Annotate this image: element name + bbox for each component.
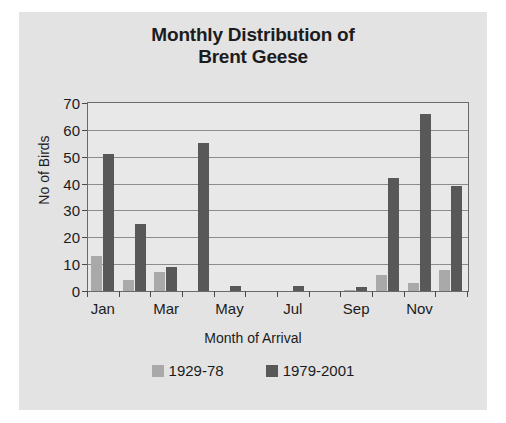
y-tick-label: 10 [27, 256, 87, 273]
bar [103, 154, 114, 291]
x-tick-mark [372, 291, 373, 297]
x-tick-label: May [200, 300, 260, 317]
chart-title-line-2: Brent Geese [19, 46, 487, 68]
x-tick-mark [119, 291, 120, 297]
bar [154, 272, 165, 291]
x-axis-tick-labels: JanMarMayJulSepNov [87, 300, 468, 322]
y-tick-label: 60 [27, 121, 87, 138]
bar [388, 178, 399, 291]
bar [439, 270, 450, 291]
x-tick-label: Mar [136, 300, 196, 317]
x-tick-mark [277, 291, 278, 297]
y-axis-ticks: 010203040506070 [19, 102, 87, 291]
x-tick-label: Nov [390, 300, 450, 317]
y-tick-label: 70 [27, 95, 87, 112]
x-tick-mark [214, 291, 215, 297]
bar-group [88, 103, 120, 291]
x-tick-mark [435, 291, 436, 297]
bar [376, 275, 387, 291]
legend-label: 1929-78 [169, 362, 224, 379]
bars-layer [88, 103, 468, 291]
bar [198, 143, 209, 291]
bar-group [436, 103, 468, 291]
x-tick-mark [467, 291, 468, 297]
bar-group [278, 103, 310, 291]
bar-group [120, 103, 152, 291]
x-tick-mark [309, 291, 310, 297]
bar [123, 280, 134, 291]
legend-label: 1979-2001 [283, 362, 355, 379]
x-tick-label: Jul [263, 300, 323, 317]
plot-area [87, 102, 469, 292]
y-tick-label: 20 [27, 229, 87, 246]
bar-group [215, 103, 247, 291]
y-tick-label: 30 [27, 202, 87, 219]
x-tick-mark [245, 291, 246, 297]
legend-item[interactable]: 1979-2001 [266, 362, 355, 379]
y-tick-label: 40 [27, 175, 87, 192]
y-tick-label: 50 [27, 148, 87, 165]
bar [408, 283, 419, 291]
legend-swatch-icon [266, 365, 278, 377]
x-tick-mark [404, 291, 405, 297]
x-tick-mark [182, 291, 183, 297]
x-axis-tick-marks [87, 291, 468, 298]
chart-figure: Monthly Distribution of Brent Geese No o… [19, 12, 487, 410]
x-tick-mark [150, 291, 151, 297]
x-axis-title: Month of Arrival [19, 330, 487, 346]
bar-group [151, 103, 183, 291]
bar [91, 256, 102, 291]
legend-swatch-icon [152, 365, 164, 377]
bar-group [373, 103, 405, 291]
bar [451, 186, 462, 291]
x-tick-mark [340, 291, 341, 297]
y-tick-label: 0 [27, 283, 87, 300]
x-tick-label: Sep [326, 300, 386, 317]
bar-group [310, 103, 342, 291]
bar-group [246, 103, 278, 291]
bar-group [405, 103, 437, 291]
bar-group [183, 103, 215, 291]
chart-title-line-1: Monthly Distribution of [19, 24, 487, 46]
bar [166, 267, 177, 291]
x-tick-label: Jan [73, 300, 133, 317]
legend-item[interactable]: 1929-78 [152, 362, 224, 379]
bar [420, 114, 431, 291]
chart-title: Monthly Distribution of Brent Geese [19, 24, 487, 68]
chart-legend: 1929-781979-2001 [19, 362, 487, 379]
bar [135, 224, 146, 291]
x-tick-mark [87, 291, 88, 297]
bar-group [341, 103, 373, 291]
